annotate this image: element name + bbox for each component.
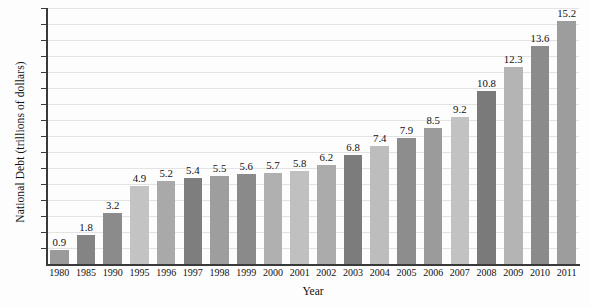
bar	[290, 171, 309, 264]
bar	[397, 138, 416, 264]
bar	[264, 173, 283, 264]
national-debt-bar-chart: National Debt (trillions of dollars) 123…	[0, 0, 590, 307]
bar-value-label: 13.6	[524, 33, 557, 44]
bar-value-label: 12.3	[497, 54, 530, 65]
bar	[370, 146, 389, 264]
bar	[557, 21, 576, 264]
bar	[317, 165, 336, 264]
bar-value-label: 3.2	[96, 200, 129, 211]
bar	[77, 235, 96, 264]
bar	[531, 46, 550, 264]
bar	[50, 250, 69, 264]
bar-value-label: 9.2	[444, 104, 477, 115]
bar	[237, 174, 256, 264]
bar	[130, 186, 149, 264]
bar-value-label: 15.2	[550, 8, 583, 19]
bar	[451, 117, 470, 264]
bar	[477, 91, 496, 264]
bar-value-label: 1.8	[70, 222, 103, 233]
bar	[103, 213, 122, 264]
x-axis-tick-label: 2011	[549, 268, 584, 278]
bar	[210, 176, 229, 264]
bar-value-label: 6.8	[337, 142, 370, 153]
bar	[184, 178, 203, 264]
bar	[157, 181, 176, 264]
bar	[344, 155, 363, 264]
bar-value-label: 0.9	[43, 237, 76, 248]
bar-value-label: 10.8	[470, 78, 503, 89]
x-axis-line	[46, 264, 580, 266]
y-axis-title: National Debt (trillions of dollars)	[14, 12, 32, 272]
bar-value-label: 7.9	[390, 125, 423, 136]
bar	[504, 67, 523, 264]
bars-layer: 0.91.83.24.95.25.45.55.65.75.86.26.87.47…	[46, 8, 580, 264]
bar	[424, 128, 443, 264]
x-axis-title: Year	[46, 285, 580, 297]
bar-value-label: 8.5	[417, 115, 450, 126]
bar-value-label: 6.2	[310, 152, 343, 163]
